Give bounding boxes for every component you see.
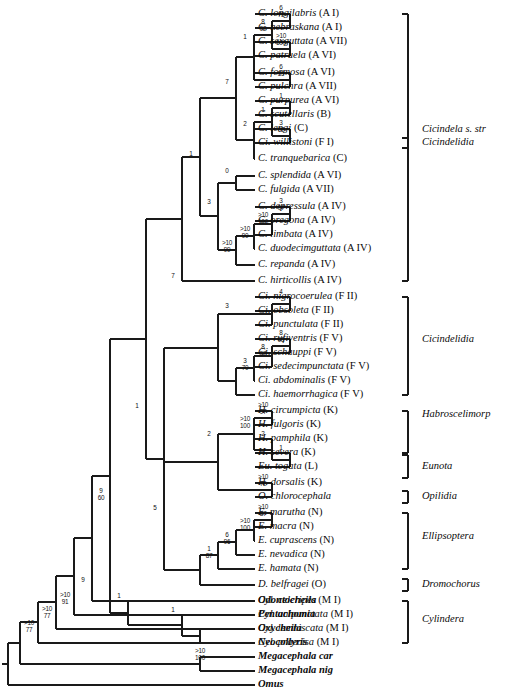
support-value: 1 <box>128 403 146 410</box>
taxon-code: (F V) <box>344 360 369 371</box>
support-value: >1090 <box>236 226 254 239</box>
support-value-bottom: 87 <box>200 553 218 560</box>
taxon-name: C. patruela <box>258 49 306 60</box>
taxon-name: H. fulgoris <box>258 418 304 429</box>
taxon-code: (K) <box>311 432 328 443</box>
support-value-bottom: 100 <box>236 525 254 532</box>
support-value: 1 <box>272 93 290 100</box>
taxon-name: E. macra <box>258 520 297 531</box>
taxon-name: C. fulgida <box>258 183 300 194</box>
support-value: 3 <box>200 199 218 206</box>
taxon-code: (M I) <box>314 636 339 647</box>
taxon-label: C. splendida (A VI) <box>258 169 341 180</box>
taxon-label: C. formosa (A VI) <box>258 66 335 77</box>
taxon-name: C. repanda <box>258 258 305 269</box>
support-value: 3 <box>218 303 236 310</box>
support-value: 0 <box>218 168 236 175</box>
clade-label: Cicindela s. str <box>422 123 486 134</box>
taxon-code: (L) <box>302 460 318 471</box>
support-value-top: 0 <box>218 168 236 175</box>
taxon-name: Ci. obsoleta <box>258 304 309 315</box>
support-value-bottom: 100 <box>272 40 290 47</box>
support-value-bottom: 77 <box>20 627 38 634</box>
taxon-label: C. limbata (A IV) <box>258 228 333 239</box>
support-value-bottom: 100 <box>191 655 209 662</box>
support-value: >10100 <box>272 33 290 46</box>
support-value-bottom: 91 <box>56 599 74 606</box>
taxon-code: (A VI) <box>305 66 335 77</box>
taxon-label: E. nevadica (N) <box>258 548 325 559</box>
taxon-name: C. limbata <box>258 228 302 239</box>
taxon-name: Ci. punctulata <box>258 318 318 329</box>
support-value: 362 <box>272 120 290 133</box>
taxon-label: Ci. rufiventris (F V) <box>258 332 342 343</box>
taxon-name: O. chlorocephala <box>258 490 331 501</box>
taxon-name: E. hamata <box>258 562 301 573</box>
taxon-label: O. chlorocephala <box>258 490 331 501</box>
clade-label: Cicindelidia <box>422 333 474 344</box>
taxon-code: (O) <box>309 578 326 589</box>
support-value-top: 1 <box>236 34 254 41</box>
taxon-code: (N) <box>305 506 322 517</box>
taxon-code: (C) <box>330 152 347 163</box>
taxon-code: (K) <box>298 446 315 457</box>
taxon-code: (K) <box>304 418 321 429</box>
taxon-code: (F V) <box>311 346 336 357</box>
taxon-code: (A I) <box>316 7 339 18</box>
taxon-code: (A IV) <box>302 228 332 239</box>
taxon-code: (F II) <box>332 290 357 301</box>
support-value-bottom: 87 <box>254 511 272 518</box>
taxon-label: C. purpurea (A VI) <box>258 94 339 105</box>
clade-label: Habroscelimorp <box>422 408 490 419</box>
taxon-name: Eu. togata <box>258 460 302 471</box>
support-value: 960 <box>92 488 110 501</box>
taxon-name: C. splendida <box>258 169 311 180</box>
support-value-bottom: 100 <box>236 423 254 430</box>
taxon-code: (A VI) <box>309 94 339 105</box>
taxon-label: E. cuprascens (N) <box>258 534 334 545</box>
support-value: 1 <box>164 607 182 614</box>
support-value: 1 <box>272 445 290 452</box>
support-value: >10100 <box>254 212 272 225</box>
taxon-name: E. nevadica <box>258 548 308 559</box>
support-value-top: 7 <box>218 79 236 86</box>
support-value-top: 1 <box>110 593 128 600</box>
taxon-code: (F V) <box>325 374 350 385</box>
taxon-label: Neocollyris <box>258 636 307 647</box>
support-value: 655 <box>272 64 290 77</box>
support-value: 2 <box>236 121 254 128</box>
support-value: 1 <box>110 593 128 600</box>
support-value: >1097 <box>254 402 272 415</box>
taxon-code: (K) <box>305 476 322 487</box>
taxon-code: (F II) <box>309 304 334 315</box>
taxon-label: Oxycheila <box>258 622 302 633</box>
clade-label: Cylindera <box>422 613 464 624</box>
taxon-code: (F I) <box>312 136 334 147</box>
taxon-label: Omus <box>258 678 284 689</box>
taxon-code: (A VI) <box>311 169 341 180</box>
support-value-bottom: 77 <box>38 613 56 620</box>
support-value: >10100 <box>236 518 254 531</box>
taxon-name: Ci. sedecimpunctata <box>258 360 344 371</box>
taxon-code: (A VII) <box>313 35 347 46</box>
taxon-name: E. cuprascens <box>258 534 317 545</box>
taxon-label: Pentachomia <box>258 608 315 619</box>
taxon-name: Oxycheila <box>258 622 302 633</box>
taxon-label: D. belfragei (O) <box>258 578 326 589</box>
taxon-name: Ci. haemorrhagica <box>258 388 338 399</box>
support-value: 9 <box>74 577 92 584</box>
taxon-label: C. pulchra (A VII) <box>258 80 337 91</box>
taxon-label: C. hirticollis (A IV) <box>258 274 341 285</box>
taxon-code: (F V) <box>317 332 342 343</box>
support-value-top: 1 <box>128 403 146 410</box>
taxon-code: (A IV) <box>341 242 371 253</box>
support-value: >10100 <box>236 416 254 429</box>
clade-label: Opilidia <box>422 490 457 501</box>
taxon-name: Ci. willistoni <box>258 136 312 147</box>
support-value-bottom: 62 <box>272 127 290 134</box>
taxon-code: (M I) <box>328 608 353 619</box>
taxon-name: Ci. abdominalis <box>258 374 325 385</box>
support-value-top: 2 <box>236 121 254 128</box>
taxon-code: (B) <box>314 108 331 119</box>
support-value: 397 <box>272 198 290 211</box>
